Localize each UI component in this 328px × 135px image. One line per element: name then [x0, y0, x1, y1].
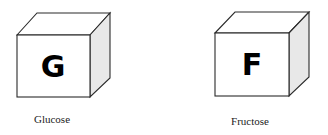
glucose-cube: G: [17, 13, 110, 97]
sugar-cubes-diagram: G Glucose F Fructose: [0, 0, 328, 135]
fructose-label: Fructose: [231, 115, 269, 127]
fructose-cube: F: [215, 12, 309, 96]
glucose-label: Glucose: [34, 113, 70, 125]
glucose-letter: G: [41, 49, 66, 84]
fructose-letter: F: [242, 47, 263, 82]
